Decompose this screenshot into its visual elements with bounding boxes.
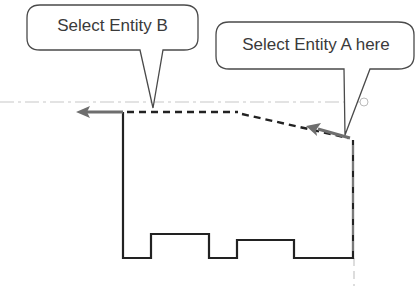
centerline-endpoint-marker (360, 98, 368, 106)
callout-entity-b-label: Select Entity B (27, 16, 198, 36)
solid-profile[interactable] (123, 112, 353, 258)
callout-entity-a-label: Select Entity A here (218, 35, 414, 55)
